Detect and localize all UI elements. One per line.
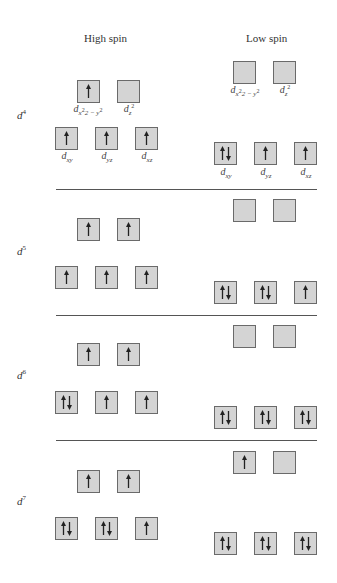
orbital-box-d7-high-t2g-1 bbox=[95, 517, 118, 540]
row-label-d4: d4 bbox=[17, 108, 26, 121]
orbital-box-d4-high-t2g-0 bbox=[55, 127, 78, 150]
spin-pair-arrows-icon bbox=[215, 407, 236, 428]
spin-up-arrow-icon bbox=[96, 392, 117, 413]
orbital-box-d7-low-eg-1 bbox=[273, 451, 296, 474]
header-high-spin: High spin bbox=[84, 32, 127, 44]
spin-pair-arrows-icon bbox=[295, 407, 316, 428]
label-dxy-low: dxy bbox=[206, 166, 246, 180]
row-label-d5: d5 bbox=[17, 244, 26, 257]
orbital-box-d7-low-t2g-0 bbox=[214, 532, 237, 555]
orbital-box-d4-low-eg-0 bbox=[233, 61, 256, 84]
spin-pair-arrows-icon bbox=[56, 518, 77, 539]
spin-pair-arrows-icon bbox=[56, 392, 77, 413]
orbital-box-d6-low-eg-0 bbox=[233, 325, 256, 348]
spin-up-arrow-icon bbox=[295, 143, 316, 164]
spin-up-arrow-icon bbox=[255, 143, 276, 164]
orbital-box-d4-low-eg-1 bbox=[273, 61, 296, 84]
orbital-box-d7-high-eg-0 bbox=[77, 470, 100, 493]
spin-up-arrow-icon bbox=[78, 81, 99, 102]
orbital-box-d5-high-t2g-1 bbox=[95, 266, 118, 289]
orbital-box-d5-low-t2g-1 bbox=[254, 281, 277, 304]
spin-pair-arrows-icon bbox=[255, 282, 276, 303]
orbital-box-d7-low-t2g-2 bbox=[294, 532, 317, 555]
label-dxy-high: dxy bbox=[47, 150, 87, 164]
spin-up-arrow-icon bbox=[78, 219, 99, 240]
spin-up-arrow-icon bbox=[136, 392, 157, 413]
label-dxz-low: dxz bbox=[286, 166, 326, 180]
orbital-box-d6-high-t2g-0 bbox=[55, 391, 78, 414]
orbital-box-d5-low-eg-0 bbox=[233, 199, 256, 222]
orbital-box-d7-high-t2g-0 bbox=[55, 517, 78, 540]
orbital-box-d4-high-t2g-2 bbox=[135, 127, 158, 150]
spin-pair-arrows-icon bbox=[295, 533, 316, 554]
orbital-box-d4-high-t2g-1 bbox=[95, 127, 118, 150]
orbital-box-d5-high-t2g-0 bbox=[55, 266, 78, 289]
orbital-box-d6-low-eg-1 bbox=[273, 325, 296, 348]
spin-up-arrow-icon bbox=[96, 128, 117, 149]
row-label-d6: d6 bbox=[17, 368, 26, 381]
label-dz2-low: dz2 bbox=[265, 84, 305, 98]
orbital-box-d4-high-eg-0 bbox=[77, 80, 100, 103]
label-dx2-y2-low: dx22 − y2 bbox=[225, 84, 265, 98]
orbital-box-d7-high-eg-1 bbox=[117, 470, 140, 493]
label-dz2-high: dz2 bbox=[109, 103, 149, 117]
spin-pair-arrows-icon bbox=[255, 407, 276, 428]
spin-up-arrow-icon bbox=[96, 267, 117, 288]
orbital-box-d7-high-t2g-2 bbox=[135, 517, 158, 540]
label-dxz-high: dxz bbox=[127, 150, 167, 164]
spin-pair-arrows-icon bbox=[255, 533, 276, 554]
spin-pair-arrows-icon bbox=[96, 518, 117, 539]
orbital-box-d7-low-eg-0 bbox=[233, 451, 256, 474]
orbital-box-d4-low-t2g-0 bbox=[214, 142, 237, 165]
spin-up-arrow-icon bbox=[118, 471, 139, 492]
spin-up-arrow-icon bbox=[56, 267, 77, 288]
orbital-box-d4-low-t2g-2 bbox=[294, 142, 317, 165]
label-dyz-high: dyz bbox=[87, 150, 127, 164]
orbital-box-d4-low-t2g-1 bbox=[254, 142, 277, 165]
orbital-box-d5-low-t2g-0 bbox=[214, 281, 237, 304]
orbital-box-d5-high-t2g-2 bbox=[135, 266, 158, 289]
orbital-box-d6-high-t2g-1 bbox=[95, 391, 118, 414]
orbital-box-d6-low-t2g-1 bbox=[254, 406, 277, 429]
spin-pair-arrows-icon bbox=[215, 143, 236, 164]
spin-up-arrow-icon bbox=[56, 128, 77, 149]
orbital-box-d5-high-eg-1 bbox=[117, 218, 140, 241]
divider-line bbox=[56, 189, 317, 190]
orbital-box-d6-low-t2g-2 bbox=[294, 406, 317, 429]
spin-up-arrow-icon bbox=[78, 471, 99, 492]
spin-up-arrow-icon bbox=[136, 267, 157, 288]
header-low-spin: Low spin bbox=[246, 32, 287, 44]
orbital-box-d6-low-t2g-0 bbox=[214, 406, 237, 429]
row-label-d7: d7 bbox=[17, 494, 26, 507]
spin-up-arrow-icon bbox=[118, 219, 139, 240]
spin-up-arrow-icon bbox=[234, 452, 255, 473]
spin-up-arrow-icon bbox=[118, 344, 139, 365]
spin-up-arrow-icon bbox=[78, 344, 99, 365]
orbital-box-d7-low-t2g-1 bbox=[254, 532, 277, 555]
divider-line bbox=[56, 440, 317, 441]
orbital-box-d5-low-eg-1 bbox=[273, 199, 296, 222]
divider-line bbox=[56, 315, 317, 316]
spin-pair-arrows-icon bbox=[215, 533, 236, 554]
spin-up-arrow-icon bbox=[136, 518, 157, 539]
orbital-box-d5-high-eg-0 bbox=[77, 218, 100, 241]
orbital-box-d6-high-eg-1 bbox=[117, 343, 140, 366]
orbital-box-d6-high-t2g-2 bbox=[135, 391, 158, 414]
orbital-box-d5-low-t2g-2 bbox=[294, 281, 317, 304]
label-dyz-low: dyz bbox=[246, 166, 286, 180]
orbital-box-d4-high-eg-1 bbox=[117, 80, 140, 103]
orbital-box-d6-high-eg-0 bbox=[77, 343, 100, 366]
spin-pair-arrows-icon bbox=[215, 282, 236, 303]
spin-up-arrow-icon bbox=[136, 128, 157, 149]
label-dx2-y2-high: dx22 − y2 bbox=[68, 103, 108, 117]
spin-up-arrow-icon bbox=[295, 282, 316, 303]
